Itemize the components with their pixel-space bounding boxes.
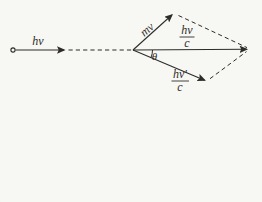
fraction-denominator: c bbox=[184, 36, 190, 50]
momentum-diagram: hν mv hν c hν′ c θ bbox=[0, 0, 262, 101]
scattered-momentum-fraction: hν′ c bbox=[172, 67, 190, 94]
incident-photon-label: hν bbox=[32, 34, 44, 48]
incident-momentum-arrow bbox=[133, 49, 247, 50]
angle-label: θ bbox=[152, 50, 158, 62]
fraction-denominator: c bbox=[177, 80, 183, 94]
source-point bbox=[11, 48, 15, 52]
momentum-diagram-canvas: hν mv hν c hν′ c θ bbox=[0, 0, 262, 101]
incident-momentum-fraction: hν c bbox=[180, 23, 195, 50]
fraction-numerator: hν bbox=[181, 23, 193, 37]
parallelogram-bottom-dashed-line bbox=[210, 52, 247, 79]
electron-momentum-label: mv bbox=[137, 19, 157, 39]
fraction-numerator: hν′ bbox=[173, 67, 187, 81]
scattered-photon-arrow bbox=[133, 50, 205, 80]
